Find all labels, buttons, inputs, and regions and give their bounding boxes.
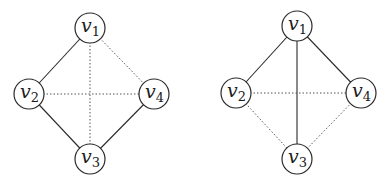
node-label-base: v: [288, 12, 299, 34]
node-v3: v3: [75, 144, 105, 174]
node-v4: v4: [139, 79, 169, 109]
node-v2: v2: [221, 78, 251, 108]
node-label-base: v: [227, 79, 238, 101]
node-label-base: v: [81, 145, 92, 167]
graph-diagrams: v1v2v3v4 v1v2v3v4: [0, 0, 392, 186]
graph-right: v1v2v3v4: [221, 11, 376, 174]
node-v1: v1: [75, 13, 105, 43]
node-label-subscript: 4: [363, 89, 371, 104]
node-label-subscript: 1: [299, 22, 307, 37]
node-label-subscript: 3: [92, 155, 100, 170]
node-label-base: v: [352, 79, 363, 101]
node-v3: v3: [282, 144, 312, 174]
node-v2: v2: [14, 79, 44, 109]
node-label-base: v: [20, 80, 31, 102]
node-label-base: v: [145, 80, 156, 102]
node-v1: v1: [282, 11, 312, 41]
node-label-subscript: 3: [299, 155, 307, 170]
node-label-subscript: 2: [238, 89, 246, 104]
node-label-base: v: [81, 14, 92, 36]
node-v4: v4: [346, 78, 376, 108]
node-label-base: v: [288, 145, 299, 167]
node-label-subscript: 2: [31, 90, 39, 105]
node-label-subscript: 1: [92, 24, 100, 39]
node-label-subscript: 4: [156, 90, 164, 105]
graph-left: v1v2v3v4: [14, 13, 169, 174]
